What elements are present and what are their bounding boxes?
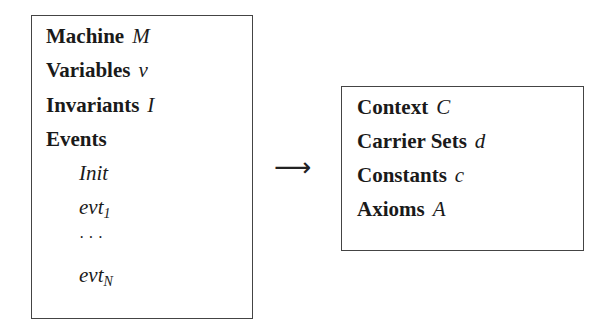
event-subscript: 1 — [103, 206, 110, 221]
symbol: A — [433, 197, 446, 221]
events-row: Events — [46, 125, 107, 153]
symbol: C — [436, 95, 450, 119]
symbol: v — [138, 58, 147, 82]
event-name: evt — [79, 263, 103, 287]
machine-box: MachineM Variablesv InvariantsI Events I… — [31, 15, 253, 319]
variables-row: Variablesv — [46, 56, 148, 84]
event-evt1: evt1 — [79, 193, 110, 221]
keyword: Carrier Sets — [357, 129, 467, 153]
context-box: ContextC Carrier Setsd Constantsc Axioms… — [341, 86, 584, 251]
keyword: Constants — [357, 163, 447, 187]
symbol: M — [132, 24, 150, 48]
event-subscript: N — [103, 274, 112, 289]
event-name: Init — [79, 161, 108, 185]
keyword: Axioms — [357, 197, 425, 221]
event-evtN: evtN — [79, 261, 113, 289]
context-row: ContextC — [357, 93, 450, 121]
event-init: Init — [79, 159, 108, 187]
machine-row: MachineM — [46, 22, 150, 50]
symbol: c — [455, 163, 464, 187]
carrier-sets-row: Carrier Setsd — [357, 127, 485, 155]
ellipsis: · · · — [79, 229, 103, 246]
constants-row: Constantsc — [357, 161, 464, 189]
event-ellipsis: · · · — [79, 224, 103, 252]
invariants-row: InvariantsI — [46, 91, 154, 119]
keyword: Variables — [46, 58, 130, 82]
keyword: Events — [46, 127, 107, 151]
symbol: d — [475, 129, 486, 153]
keyword: Invariants — [46, 93, 139, 117]
symbol: I — [147, 93, 154, 117]
right-arrow-icon: ⟶ — [274, 152, 311, 182]
keyword: Machine — [46, 24, 124, 48]
axioms-row: AxiomsA — [357, 195, 446, 223]
event-name: evt — [79, 195, 103, 219]
keyword: Context — [357, 95, 428, 119]
